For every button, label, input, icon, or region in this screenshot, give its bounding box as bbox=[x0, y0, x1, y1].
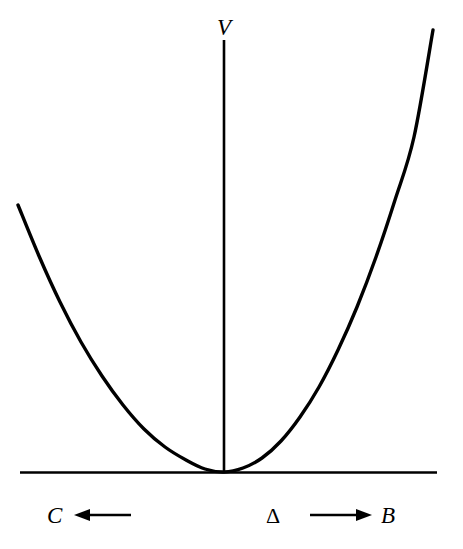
arrow-right-icon bbox=[310, 509, 372, 521]
plot-svg bbox=[0, 0, 463, 549]
c-branch-label: C bbox=[47, 504, 62, 527]
arrow-left-icon bbox=[74, 509, 131, 521]
order-parameter-label: Δ bbox=[266, 505, 280, 527]
b-branch-label: B bbox=[381, 504, 395, 527]
v-axis-label: V bbox=[217, 16, 231, 39]
figure-canvas: V C Δ B bbox=[0, 0, 463, 549]
potential-curve bbox=[18, 30, 433, 472]
